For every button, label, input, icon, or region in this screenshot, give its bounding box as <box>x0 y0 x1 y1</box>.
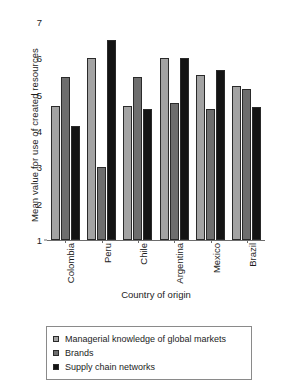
bar <box>107 40 116 240</box>
bar <box>206 109 215 240</box>
x-tick-label-text: Peru <box>102 243 113 263</box>
x-tick-label-text: Chile <box>138 243 149 265</box>
legend-label: Brands <box>65 348 94 358</box>
bar <box>216 70 225 240</box>
y-tick-label: 6 <box>37 53 47 64</box>
x-tick-label-text: Brazil <box>247 243 258 267</box>
legend-label: Supply chain networks <box>65 362 155 372</box>
bar <box>51 106 60 240</box>
x-axis-title: Country of origin <box>47 289 265 300</box>
bar-group-colombia <box>51 22 80 240</box>
bar <box>252 107 261 240</box>
bar <box>160 58 169 240</box>
bar-group-chile <box>123 22 152 240</box>
bar <box>61 77 70 241</box>
legend-label: Managerial knowledge of global markets <box>65 334 226 344</box>
bar-group-peru <box>87 22 116 240</box>
y-tick-label: 4 <box>37 126 47 137</box>
bar <box>133 77 142 241</box>
x-tick-label-text: Argentina <box>174 243 185 284</box>
bar <box>97 167 106 240</box>
y-tick-label: 3 <box>37 162 47 173</box>
y-tick-label: 5 <box>37 89 47 100</box>
chart-legend: Managerial knowledge of global marketsBr… <box>46 326 252 380</box>
bar <box>87 58 96 240</box>
y-tick-label: 2 <box>37 198 47 209</box>
bar <box>232 86 241 240</box>
bar <box>71 126 80 240</box>
bar <box>180 58 189 240</box>
bar <box>170 103 179 240</box>
bar-chart-figure: Mean value for use of created resources … <box>0 0 284 382</box>
bar-group-argentina <box>160 22 189 240</box>
y-tick-label: 7 <box>37 17 47 28</box>
legend-item: Managerial knowledge of global markets <box>53 332 245 346</box>
legend-item: Supply chain networks <box>53 360 245 374</box>
plot-area: 1234567 <box>47 22 265 240</box>
bar-group-brazil <box>232 22 261 240</box>
legend-item: Brands <box>53 346 245 360</box>
bar <box>143 109 152 240</box>
x-axis-line <box>47 240 265 241</box>
bar <box>123 106 132 240</box>
legend-swatch-icon <box>53 350 59 356</box>
x-tick-label-text: Colombia <box>65 243 76 283</box>
legend-swatch-icon <box>53 336 59 342</box>
bar <box>196 75 205 240</box>
x-tick-label-text: Mexico <box>211 243 222 273</box>
bar-group-mexico <box>196 22 225 240</box>
legend-swatch-icon <box>53 364 59 370</box>
bar <box>242 89 251 240</box>
